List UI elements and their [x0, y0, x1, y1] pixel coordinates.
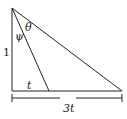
vertical-side-label: 1: [3, 46, 10, 59]
angle-psi-label: ψ: [15, 30, 24, 43]
total-base-label: 3t: [63, 102, 75, 115]
inner-base-label: t: [27, 79, 32, 92]
triangle-diagram: 1 ψ θ t 3t: [0, 0, 127, 119]
angle-theta-label: θ: [25, 21, 32, 34]
